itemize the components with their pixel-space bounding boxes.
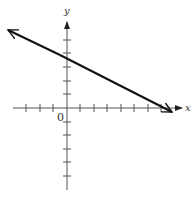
graphed-line (60, 55, 172, 112)
x-axis-label: x (185, 102, 191, 113)
graphed-line (8, 30, 60, 55)
origin-label: 0 (57, 111, 64, 124)
y-axis-label: y (63, 5, 70, 16)
coordinate-plane: y x 0 (0, 0, 196, 202)
